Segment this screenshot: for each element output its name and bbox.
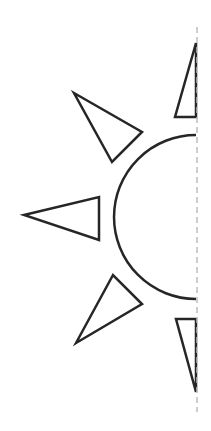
sun-ray-top (175, 43, 196, 117)
sun-ray-upper-left (74, 93, 142, 162)
sun-rays (24, 43, 196, 392)
sun-ray-left (24, 197, 99, 240)
sun-outline-svg (0, 0, 211, 431)
sun-half-circle (114, 135, 196, 299)
sun-ray-bottom (176, 319, 196, 392)
half-sun-drawing (0, 0, 211, 431)
sun-ray-lower-left (76, 275, 142, 343)
